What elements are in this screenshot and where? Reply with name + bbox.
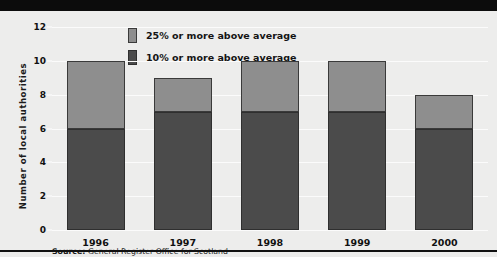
- y-axis-tick-label: 6: [40, 124, 46, 134]
- y-axis-tick-label: 8: [40, 90, 46, 100]
- bar-segment-25-percent[interactable]: [241, 61, 299, 112]
- bar-segment-25-percent[interactable]: [328, 61, 386, 112]
- bar-group[interactable]: 1996: [67, 27, 125, 230]
- y-axis-tick-label: 4: [40, 157, 46, 167]
- gridline: [52, 230, 488, 231]
- chart-figure: Number of local authorities 25% or more …: [0, 0, 497, 257]
- x-axis-category-label: 2000: [431, 237, 457, 248]
- y-axis-tick-label: 12: [33, 22, 46, 32]
- bar-segment-10-percent[interactable]: [241, 112, 299, 230]
- bar-segment-10-percent[interactable]: [67, 129, 125, 231]
- y-axis-tick-mark: [47, 27, 52, 28]
- y-axis-tick-mark: [47, 162, 52, 163]
- plot-area: 02468101219961997199819992000: [52, 27, 488, 230]
- bar-segment-10-percent[interactable]: [328, 112, 386, 230]
- y-axis-title: Number of local authorities: [18, 51, 28, 221]
- chart-panel: Number of local authorities 25% or more …: [0, 11, 497, 250]
- y-axis-tick-mark: [47, 128, 52, 129]
- y-axis-tick-mark: [47, 60, 52, 61]
- bar-segment-10-percent[interactable]: [415, 129, 473, 231]
- bar-group[interactable]: 1998: [241, 27, 299, 230]
- y-axis-tick-mark: [47, 230, 52, 231]
- y-axis-tick-label: 10: [33, 56, 46, 66]
- top-black-band: [0, 0, 497, 11]
- bar-group[interactable]: 2000: [415, 27, 473, 230]
- bar-segment-25-percent[interactable]: [415, 95, 473, 129]
- bar-segment-10-percent[interactable]: [154, 112, 212, 230]
- y-axis-tick-label: 0: [40, 225, 46, 235]
- bar-group[interactable]: 1997: [154, 27, 212, 230]
- bar-group[interactable]: 1999: [328, 27, 386, 230]
- x-axis-category-label: 1999: [344, 237, 370, 248]
- bar-segment-25-percent[interactable]: [67, 61, 125, 129]
- y-axis-tick-mark: [47, 94, 52, 95]
- bottom-rule: [0, 250, 497, 252]
- y-axis-tick-label: 2: [40, 191, 46, 201]
- bar-segment-25-percent[interactable]: [154, 78, 212, 112]
- x-axis-category-label: 1998: [257, 237, 283, 248]
- y-axis-tick-mark: [47, 196, 52, 197]
